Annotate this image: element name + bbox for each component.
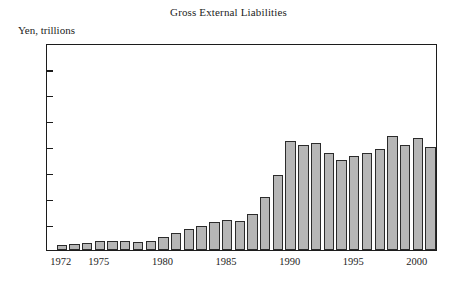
x-tick-label: 1985 (216, 256, 237, 267)
bar (171, 233, 181, 250)
bar (273, 175, 283, 250)
bar (158, 237, 168, 250)
bar (336, 160, 346, 250)
bar (425, 147, 435, 250)
bar (349, 156, 359, 250)
bar (209, 222, 219, 250)
bar (184, 229, 194, 250)
bar (413, 138, 423, 250)
bar (133, 242, 143, 250)
bar (57, 245, 67, 250)
bar (247, 214, 257, 250)
x-tick-label: 1995 (343, 256, 364, 267)
bar (120, 241, 130, 250)
bar (324, 153, 334, 250)
bar (107, 241, 117, 250)
plot-area: 50100150200250300350 (46, 44, 437, 251)
x-tick-label: 1990 (279, 256, 300, 267)
x-tick-label: 1980 (152, 256, 173, 267)
bar (375, 149, 385, 250)
bar (196, 226, 206, 250)
x-tick-label: 2000 (406, 256, 427, 267)
bar (387, 136, 397, 250)
plot-inner: 50100150200250300350 (47, 45, 436, 250)
bar (285, 141, 295, 250)
bar (95, 241, 105, 250)
bar (400, 145, 410, 250)
bar (82, 243, 92, 250)
bar (146, 241, 156, 250)
bar (298, 145, 308, 250)
bar (222, 220, 232, 250)
chart-figure: Gross External Liabilities Yen, trillion… (0, 0, 457, 295)
bar (69, 244, 79, 250)
x-tick-label: 1972 (50, 256, 71, 267)
bar (311, 143, 321, 250)
bar (260, 197, 270, 250)
bar (235, 221, 245, 250)
x-tick-label: 1975 (88, 256, 109, 267)
bar (362, 153, 372, 250)
chart-title: Gross External Liabilities (0, 6, 457, 18)
y-axis-label: Yen, trillions (18, 24, 75, 36)
bar-series (47, 45, 436, 250)
